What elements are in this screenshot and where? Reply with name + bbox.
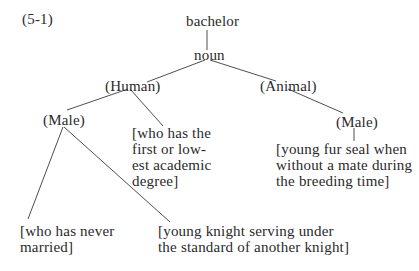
node-human: (Human) [105,78,161,94]
node-animal: (Animal) [260,78,317,94]
node-bachelor: bachelor [186,13,239,29]
definition-never-married: [who has never married] [20,223,114,255]
edge-human-academic [130,89,163,126]
example-label: (5-1) [22,11,53,27]
edge-male-nevermarried [28,127,63,219]
definition-academic-degree: [who has the first or low- est academic … [132,125,211,189]
node-human-male: (Male) [43,112,85,128]
definition-fur-seal: [young fur seal when without a mate duri… [276,141,412,189]
node-noun: noun [194,47,225,63]
node-animal-male: (Male) [336,114,378,130]
definition-knight: [young knight serving under the standard… [158,223,349,255]
